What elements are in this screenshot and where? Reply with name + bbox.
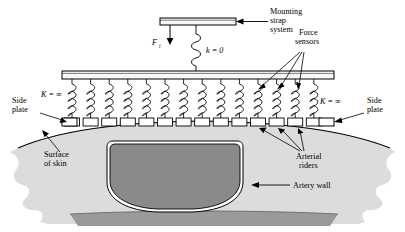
arterial-rider xyxy=(83,118,98,126)
arterial-rider xyxy=(139,118,154,126)
side-plate-right-leader xyxy=(334,113,364,123)
k-zero-spring xyxy=(192,25,201,71)
arterial-rider xyxy=(269,118,284,126)
force-sensor-spring xyxy=(235,79,243,118)
label-mounting-strap-line3: system xyxy=(270,25,293,34)
mounting-strap-bar xyxy=(160,18,236,25)
label-arterial-riders-line2: riders xyxy=(299,161,318,170)
force-sensor-spring xyxy=(142,79,150,118)
arterial-rider xyxy=(232,118,247,126)
label-applied-force: F xyxy=(151,38,158,47)
artery-lumen xyxy=(110,144,240,209)
force-sensor-spring xyxy=(217,79,225,118)
label-side-plate-left-line2: plate xyxy=(12,105,28,114)
label-k-zero: k = 0 xyxy=(206,46,223,55)
label-side-plate-left-line1: Side xyxy=(12,96,27,105)
force-sensor-spring xyxy=(68,79,76,118)
force-sensor-spring xyxy=(180,79,188,118)
main-rigid-plate xyxy=(62,71,334,79)
label-surface-of-skin-line2: of skin xyxy=(44,159,67,168)
arterial-rider xyxy=(251,118,266,126)
artery xyxy=(107,141,243,212)
force-sensor-spring xyxy=(124,79,132,118)
arterial-tonometer-figure: Mounting strap system Force sensors F i … xyxy=(0,0,405,232)
label-mounting-strap-line1: Mounting xyxy=(270,7,302,16)
force-sensor-spring xyxy=(161,79,169,118)
label-stiffness-right: K = ∞ xyxy=(319,97,341,106)
label-mounting-strap-line2: strap xyxy=(270,16,286,25)
label-side-plate-right-line2: plate xyxy=(367,105,383,114)
arterial-rider xyxy=(288,118,303,126)
force-sensor-spring xyxy=(105,79,113,118)
force-sensor-spring xyxy=(310,79,318,118)
arterial-rider xyxy=(158,118,173,126)
label-surface-of-skin-line1: Surface xyxy=(44,150,69,159)
arterial-rider xyxy=(195,118,210,126)
force-sensor-spring xyxy=(273,79,281,118)
label-force-sensors-line1: Force xyxy=(299,28,318,37)
label-force-sensors-line2: sensors xyxy=(295,37,319,46)
force-sensor-spring xyxy=(87,79,95,118)
arterial-rider xyxy=(120,118,135,126)
label-stiffness-left: K = ∞ xyxy=(40,90,62,99)
arterial-rider xyxy=(102,118,117,126)
label-side-plate-right-line1: Side xyxy=(367,96,382,105)
force-sensor-spring xyxy=(198,79,206,118)
mounting-strap-leader xyxy=(236,19,268,25)
applied-force-arrow xyxy=(167,25,174,45)
force-sensor-spring xyxy=(254,79,262,118)
label-arterial-riders-line1: Arterial xyxy=(296,152,322,161)
label-artery-wall: Artery wall xyxy=(293,181,331,190)
arterial-rider xyxy=(213,118,228,126)
side-plate-right xyxy=(319,118,334,126)
label-applied-force-subscript: i xyxy=(159,43,161,49)
arterial-rider xyxy=(176,118,191,126)
deep-tissue-band xyxy=(70,211,338,226)
